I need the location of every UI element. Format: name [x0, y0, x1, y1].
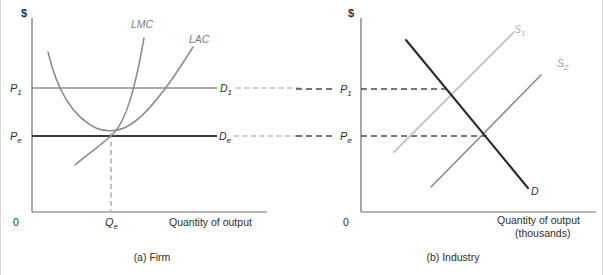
firm-caption: (a) Firm: [1, 251, 303, 263]
industry-plot: $ 0 Quantity of output (thousands) P1 Pe…: [302, 0, 603, 275]
industry-x-axis-label-line2: (thousands): [515, 227, 570, 239]
figure-root: $ 0 Quantity of output P1 Pe Qe LMC LAC …: [0, 0, 603, 275]
firm-quantity-qe-label: Qe: [105, 216, 119, 231]
industry-y-axis-label: $: [348, 7, 354, 19]
industry-caption: (b) Industry: [302, 251, 603, 263]
firm-de-label: De: [219, 130, 232, 145]
industry-demand-line: [406, 40, 528, 188]
panel-industry: $ 0 Quantity of output (thousands) P1 Pe…: [302, 0, 603, 275]
firm-x-axis-label: Quantity of output: [169, 216, 252, 228]
firm-d1-label: D1: [220, 82, 232, 97]
firm-price-p1-label: P1: [10, 82, 22, 97]
firm-lac-label: LAC: [189, 33, 210, 45]
firm-price-pe-label: Pe: [10, 130, 22, 145]
firm-lmc-label: LMC: [131, 18, 154, 30]
panel-firm: $ 0 Quantity of output P1 Pe Qe LMC LAC …: [1, 0, 303, 275]
firm-lmc-curve: [75, 38, 144, 165]
firm-y-axis-label: $: [21, 7, 27, 19]
industry-x-axis-label-line1: Quantity of output: [497, 214, 580, 226]
firm-origin-label: 0: [13, 216, 19, 228]
industry-d-label: D: [531, 185, 539, 197]
industry-s1-label: S1: [514, 23, 525, 38]
industry-s2-label: S2: [557, 57, 569, 72]
firm-plot: $ 0 Quantity of output P1 Pe Qe LMC LAC …: [1, 0, 303, 275]
firm-lac-curve: [48, 47, 193, 131]
industry-supply-s1-line: [394, 33, 513, 152]
industry-price-p1-label: P1: [340, 83, 352, 98]
industry-origin-label: 0: [343, 216, 349, 228]
industry-price-pe-label: Pe: [340, 130, 352, 145]
